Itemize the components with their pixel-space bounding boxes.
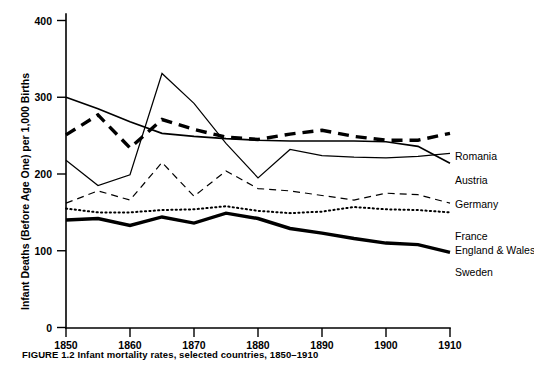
legend-item-france[interactable]: France (455, 230, 488, 242)
y-tick-label-300: 300 (34, 91, 52, 103)
legend-item-sweden[interactable]: Sweden (455, 266, 493, 278)
y-tick-label-200: 200 (34, 168, 52, 180)
legend-item-austria[interactable]: Austria (455, 174, 488, 186)
legend-item-romania[interactable]: Romania (455, 150, 497, 162)
series-line-england-and-wales (66, 206, 450, 213)
line-chart: Infant Deaths (Before Age One) per 1,000… (0, 0, 534, 368)
legend-item-germany[interactable]: Germany (455, 198, 499, 210)
figure-caption: FIGURE 1.2 Infant mortality rates, selec… (22, 349, 318, 360)
legend-item-england-and-wales[interactable]: England & Wales (455, 244, 534, 256)
figure-container: Infant Deaths (Before Age One) per 1,000… (0, 0, 534, 368)
series-line-france (66, 162, 450, 203)
series-line-romania (66, 97, 450, 163)
y-tick-group: 400 300 200 100 0 (34, 15, 66, 334)
series-group (66, 73, 450, 252)
x-tick-group: 1850 1860 1870 1880 1890 1900 1910 (54, 328, 462, 351)
series-line-sweden (66, 213, 450, 252)
legend: Romania Austria Germany France England &… (455, 150, 534, 278)
y-tick-label-100: 100 (34, 245, 52, 257)
y-tick-label-0: 0 (46, 322, 52, 334)
figure-caption-clip: FIGURE 1.2 Infant mortality rates, selec… (0, 349, 534, 368)
y-tick-label-400: 400 (34, 15, 52, 27)
series-line-germany (66, 73, 450, 185)
y-axis-label: Infant Deaths (Before Age One) per 1,000… (19, 73, 31, 310)
